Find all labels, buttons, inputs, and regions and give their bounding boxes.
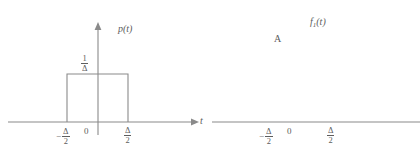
xtick-label-positive-half-delta: Δ 2	[124, 126, 131, 145]
minus-sign-icon: −	[259, 132, 264, 141]
negative-half-delta-fraction: Δ 2	[265, 127, 272, 146]
xtick-label-negative-half-delta: − Δ 2	[56, 126, 70, 146]
x-axis-label: t	[200, 116, 203, 126]
negative-half-delta-fraction: Δ 2	[62, 127, 69, 146]
negative-delta-denominator: 2	[62, 137, 69, 146]
xtick-label-positive-half-delta: Δ 2	[327, 126, 334, 145]
y-axis-label: f1(t)	[310, 17, 326, 29]
xtick-label-negative-half-delta: − Δ 2	[259, 126, 273, 146]
x-axis-arrow-icon	[191, 119, 199, 126]
figure-canvas: p(t) t 1 Δ − Δ 2 0 Δ 2	[0, 0, 420, 159]
y-axis-arrow-icon	[95, 22, 102, 30]
negative-delta-denominator: 2	[265, 137, 272, 146]
amplitude-label: A	[274, 34, 281, 44]
amplitude-label: 1 Δ	[81, 54, 88, 73]
positive-half-delta-fraction: Δ 2	[327, 126, 334, 145]
positive-half-delta-fraction: Δ 2	[124, 126, 131, 145]
y-axis-label-arg: (t)	[316, 16, 325, 27]
y-axis-label: p(t)	[118, 24, 132, 34]
xtick-label-zero: 0	[84, 127, 89, 136]
amplitude-fraction: 1 Δ	[81, 54, 88, 73]
y-axis-label-arg: (t)	[123, 23, 132, 34]
xtick-label-zero: 0	[287, 127, 292, 136]
amplitude-denominator: Δ	[81, 64, 88, 73]
chart-p-of-t: p(t) t 1 Δ − Δ 2 0 Δ 2	[0, 0, 210, 159]
minus-sign-icon: −	[56, 132, 61, 141]
positive-delta-denominator: 2	[327, 136, 334, 145]
chart-p-of-t-svg	[0, 0, 210, 159]
chart-f1-of-t: f1(t) t A − Δ 2 0 Δ 2	[210, 0, 420, 159]
positive-delta-denominator: 2	[124, 136, 131, 145]
